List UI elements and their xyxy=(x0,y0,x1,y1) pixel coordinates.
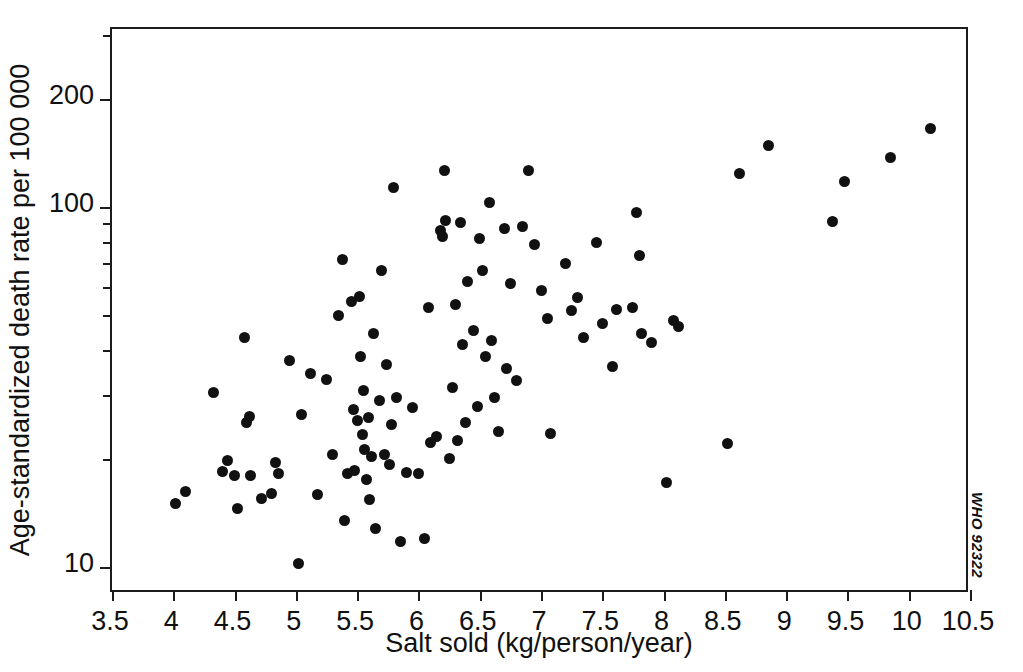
data-point xyxy=(180,486,191,497)
data-point xyxy=(376,265,387,276)
data-point xyxy=(661,477,672,488)
data-point xyxy=(763,140,774,151)
data-point xyxy=(925,123,936,134)
data-point xyxy=(455,217,466,228)
y-tick-minor xyxy=(103,350,112,352)
x-tick xyxy=(970,590,972,601)
data-point xyxy=(536,285,547,296)
data-point xyxy=(489,392,500,403)
data-point xyxy=(597,318,608,329)
data-point xyxy=(529,239,540,250)
data-point xyxy=(239,332,250,343)
data-point xyxy=(273,468,284,479)
data-point xyxy=(368,328,379,339)
data-point xyxy=(333,310,344,321)
x-tick xyxy=(357,590,359,601)
figure-scatter-salt-vs-death-rate: Age-standardized death rate per 100 000 … xyxy=(0,0,1023,672)
data-point xyxy=(370,523,381,534)
data-point xyxy=(607,361,618,372)
data-point xyxy=(631,207,642,218)
y-tick-major xyxy=(100,207,112,209)
data-point xyxy=(413,468,424,479)
data-point xyxy=(217,466,228,477)
data-point xyxy=(386,419,397,430)
data-point xyxy=(423,302,434,313)
y-tick-label: 200 xyxy=(24,80,94,111)
y-tick-label: 100 xyxy=(24,188,94,219)
data-point xyxy=(572,292,583,303)
y-tick-major xyxy=(100,99,112,101)
x-tick xyxy=(418,590,420,601)
data-point xyxy=(460,417,471,428)
data-point xyxy=(646,337,657,348)
data-points-layer xyxy=(112,29,966,590)
data-point xyxy=(734,168,745,179)
data-point xyxy=(472,401,483,412)
y-axis-title-text: Age-standardized death rate per 100 000 xyxy=(5,63,36,555)
data-point xyxy=(493,426,504,437)
who-code-annotation: WHO 92322 xyxy=(968,480,986,590)
y-tick-minor xyxy=(103,223,112,225)
data-point xyxy=(444,453,455,464)
data-point xyxy=(477,265,488,276)
data-point xyxy=(468,325,479,336)
y-tick-minor xyxy=(103,263,112,265)
data-point xyxy=(374,395,385,406)
data-point xyxy=(293,558,304,569)
data-point xyxy=(208,387,219,398)
y-tick-minor xyxy=(103,395,112,397)
data-point xyxy=(462,276,473,287)
data-point xyxy=(284,355,295,366)
data-point xyxy=(480,351,491,362)
data-point xyxy=(560,258,571,269)
x-tick xyxy=(480,590,482,601)
data-point xyxy=(634,250,645,261)
data-point xyxy=(170,498,181,509)
data-point xyxy=(827,216,838,227)
data-point xyxy=(232,503,243,514)
x-tick xyxy=(112,590,114,601)
data-point xyxy=(305,368,316,379)
data-point xyxy=(244,411,255,422)
data-point xyxy=(337,254,348,265)
data-point xyxy=(437,231,448,242)
data-point xyxy=(339,515,350,526)
data-point xyxy=(222,455,233,466)
data-point xyxy=(457,339,468,350)
y-tick-minor xyxy=(103,459,112,461)
data-point xyxy=(499,223,510,234)
data-point xyxy=(523,165,534,176)
data-point xyxy=(266,488,277,499)
data-point xyxy=(501,363,512,374)
x-tick xyxy=(173,590,175,601)
x-tick xyxy=(296,590,298,601)
data-point xyxy=(381,359,392,370)
data-point xyxy=(395,536,406,547)
x-tick xyxy=(235,590,237,601)
data-point xyxy=(636,328,647,339)
data-point xyxy=(611,304,622,315)
data-point xyxy=(348,404,359,415)
data-point xyxy=(447,382,458,393)
data-point xyxy=(722,438,733,449)
x-tick xyxy=(847,590,849,601)
x-tick xyxy=(664,590,666,601)
y-tick-minor xyxy=(103,315,112,317)
data-point xyxy=(391,392,402,403)
data-point xyxy=(627,302,638,313)
y-tick-minor xyxy=(103,242,112,244)
data-point xyxy=(388,182,399,193)
data-point xyxy=(270,457,281,468)
y-tick-minor xyxy=(103,35,112,37)
x-tick xyxy=(786,590,788,601)
data-point xyxy=(354,291,365,302)
data-point xyxy=(401,467,412,478)
data-point xyxy=(321,374,332,385)
data-point xyxy=(431,431,442,442)
data-point xyxy=(361,474,372,485)
data-point xyxy=(673,321,684,332)
y-tick-label: 10 xyxy=(24,548,94,579)
data-point xyxy=(407,402,418,413)
data-point xyxy=(327,449,338,460)
data-point xyxy=(229,470,240,481)
